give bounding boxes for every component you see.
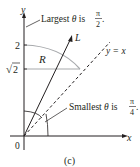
arc-boundary (24, 45, 80, 69)
annotation-largest: Largest θ is (41, 14, 85, 24)
annotation-smallest: Smallest θ is (69, 102, 118, 112)
sqrt-radical: √ (6, 63, 13, 75)
line-label: y = x (105, 46, 126, 56)
figure-caption: (c) (64, 155, 75, 167)
origin-label: 0 (15, 141, 20, 151)
svg-text:.: . (136, 102, 138, 112)
svg-text:4: 4 (130, 108, 134, 117)
polar-region-diagram: y x 0 2 √ 2 R L y = x Largest θ is π 2 .… (0, 0, 140, 167)
ray-arrow-icon (68, 35, 73, 42)
ray-label: L (74, 32, 81, 43)
svg-text:2: 2 (96, 20, 100, 29)
leader-top (26, 20, 40, 27)
y-tick-2: 2 (15, 40, 20, 51)
svg-text:.: . (102, 14, 104, 24)
svg-text:π: π (96, 9, 100, 18)
region-label: R (38, 53, 46, 65)
y-tick-sqrt2: 2 (13, 64, 18, 75)
x-axis-label: x (126, 132, 132, 143)
diagram-canvas: y x 0 2 √ 2 R L y = x Largest θ is π 2 .… (0, 0, 140, 167)
smallest-angle-arc (46, 114, 48, 136)
line-y-equals-x (24, 42, 110, 136)
svg-text:π: π (130, 97, 134, 106)
y-axis-label: y (20, 4, 26, 15)
